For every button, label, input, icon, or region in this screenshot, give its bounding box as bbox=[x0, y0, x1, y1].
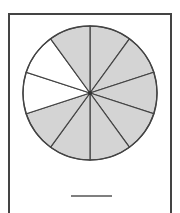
fraction-circle bbox=[0, 0, 180, 213]
circle-center bbox=[88, 91, 92, 95]
